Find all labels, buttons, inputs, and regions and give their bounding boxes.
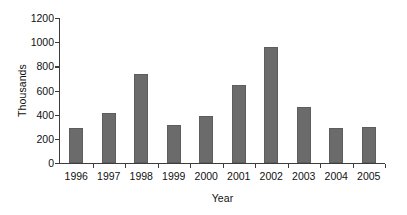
y-axis-tick-label: 0: [22, 157, 54, 169]
x-axis-tick-labels: 1996199719981999200020012002200320042005: [60, 170, 385, 184]
bar-2004: [329, 128, 343, 163]
x-axis-tick-mark: [353, 164, 354, 168]
x-axis-tick-label: 2005: [353, 170, 386, 183]
y-axis-tick-mark: [55, 91, 59, 92]
y-axis-tick-mark: [55, 42, 59, 43]
bar-2005: [362, 127, 376, 163]
bar-2001: [232, 85, 246, 163]
x-axis-title: Year: [60, 192, 385, 204]
x-axis-tick-mark: [223, 164, 224, 168]
y-axis-tick-mark: [55, 66, 59, 67]
x-axis-tick-label: 1998: [125, 170, 158, 183]
x-axis-tick-label: 2000: [190, 170, 223, 183]
bar-1996: [69, 128, 83, 163]
x-axis-tick-label: 2002: [255, 170, 288, 183]
x-axis-tick-label: 1996: [60, 170, 93, 183]
bar-1998: [134, 74, 148, 163]
x-axis-tick-mark: [320, 164, 321, 168]
plot-area: [60, 18, 385, 163]
x-axis-tick-mark: [288, 164, 289, 168]
y-axis-tick-label: 400: [22, 109, 54, 121]
bar-chart: Thousands 020040060080010001200 19961997…: [0, 0, 407, 215]
x-axis-tick-mark: [385, 164, 386, 168]
bar-1997: [102, 113, 116, 163]
x-axis-tick-label: 2003: [288, 170, 321, 183]
x-axis-tick-mark: [255, 164, 256, 168]
x-axis-tick-label: 2004: [320, 170, 353, 183]
y-axis-tick-label: 800: [22, 60, 54, 72]
y-axis-tick-mark: [55, 115, 59, 116]
x-axis-tick-label: 2001: [223, 170, 256, 183]
x-axis-tick-label: 1997: [93, 170, 126, 183]
y-axis-tick-mark: [55, 139, 59, 140]
y-axis-tick-mark: [55, 18, 59, 19]
y-axis-tick-mark: [55, 163, 59, 164]
x-axis-tick-mark: [93, 164, 94, 168]
y-axis-tick-label: 600: [22, 85, 54, 97]
bar-2000: [199, 116, 213, 163]
y-axis-tick-label: 1000: [22, 36, 54, 48]
y-axis-tick-label: 200: [22, 133, 54, 145]
x-axis-tick-mark: [158, 164, 159, 168]
bar-1999: [167, 125, 181, 163]
x-axis-tick-label: 1999: [158, 170, 191, 183]
y-axis-tick-labels: 020040060080010001200: [22, 11, 54, 169]
bar-2002: [264, 47, 278, 163]
x-axis-tick-mark: [125, 164, 126, 168]
y-axis-tick-label: 1200: [22, 12, 54, 24]
bar-2003: [297, 107, 311, 163]
x-axis-tick-mark: [190, 164, 191, 168]
